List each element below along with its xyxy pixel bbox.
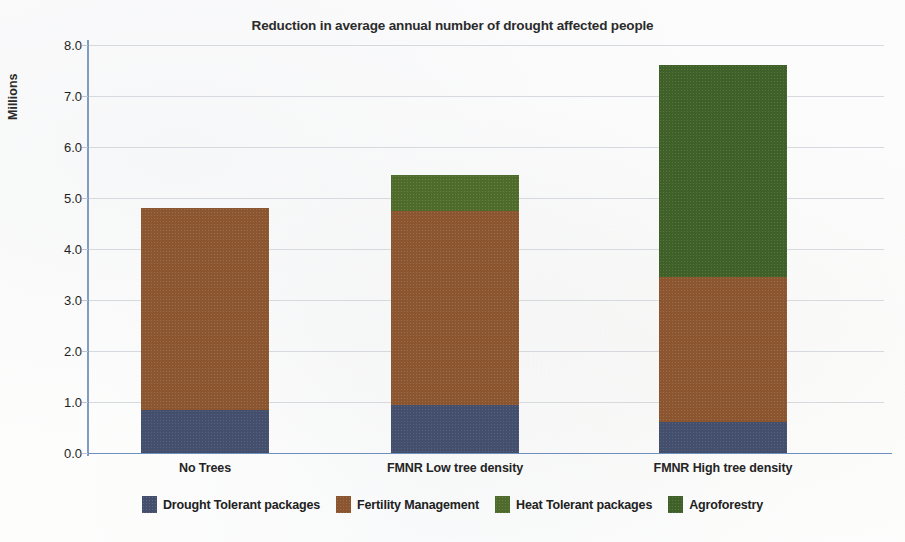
bar-segment-heat-tolerant[interactable]: [391, 175, 519, 211]
bar-group[interactable]: [659, 45, 787, 453]
y-axis-tick-mark: [82, 198, 88, 199]
legend-item[interactable]: Fertility Management: [336, 496, 479, 513]
bar-segment-drought-tolerant[interactable]: [141, 410, 269, 453]
y-axis-tick-label: 5.0: [38, 191, 82, 206]
legend-item[interactable]: Agroforestry: [668, 496, 763, 513]
bar-group[interactable]: [391, 45, 519, 453]
y-axis-tick-label: 1.0: [38, 395, 82, 410]
chart-title: Reduction in average annual number of dr…: [0, 18, 905, 33]
bar-group[interactable]: [141, 45, 269, 453]
legend-label: Agroforestry: [689, 498, 763, 512]
y-axis-tick-mark: [82, 249, 88, 250]
y-axis-tick-label: 3.0: [38, 293, 82, 308]
legend-label: Fertility Management: [357, 498, 479, 512]
y-axis-line: [87, 40, 89, 456]
y-axis-tick-mark: [82, 147, 88, 148]
x-axis-category-label: FMNR High tree density: [593, 461, 853, 475]
legend-item[interactable]: Drought Tolerant packages: [142, 496, 320, 513]
bar-segment-fertility-management[interactable]: [141, 208, 269, 409]
y-axis-tick-mark: [82, 402, 88, 403]
legend-label: Heat Tolerant packages: [516, 498, 652, 512]
y-axis-tick-label: 8.0: [38, 38, 82, 53]
bar-segment-drought-tolerant[interactable]: [391, 405, 519, 453]
x-axis-category-label: FMNR Low tree density: [325, 461, 585, 475]
legend-item[interactable]: Heat Tolerant packages: [495, 496, 652, 513]
bar-segment-drought-tolerant[interactable]: [659, 422, 787, 453]
y-axis-tick-label: 6.0: [38, 140, 82, 155]
y-axis-title: Millions: [6, 52, 24, 142]
y-axis-tick-label: 2.0: [38, 344, 82, 359]
y-axis-tick-label: 7.0: [38, 89, 82, 104]
y-axis-tick-mark: [82, 453, 88, 454]
plot-area: [88, 45, 884, 453]
legend-label: Drought Tolerant packages: [163, 498, 320, 512]
bar-segment-fertility-management[interactable]: [659, 277, 787, 422]
stacked-bar-chart: Reduction in average annual number of dr…: [0, 0, 905, 542]
bar-segment-fertility-management[interactable]: [391, 211, 519, 405]
bar-segment-agroforestry[interactable]: [659, 65, 787, 277]
x-axis-category-label: No Trees: [75, 461, 335, 475]
legend-swatch-fertility-management: [336, 496, 351, 513]
y-axis-tick-label: 4.0: [38, 242, 82, 257]
legend-swatch-drought-tolerant: [142, 496, 157, 513]
chart-legend: Drought Tolerant packagesFertility Manag…: [0, 496, 905, 513]
x-axis-line: [80, 453, 892, 455]
y-axis-tick-mark: [82, 96, 88, 97]
y-axis-tick-mark: [82, 300, 88, 301]
y-axis-tick-label: 0.0: [38, 446, 82, 461]
y-axis-tick-mark: [82, 45, 88, 46]
legend-swatch-heat-tolerant: [495, 496, 510, 513]
y-axis-tick-mark: [82, 351, 88, 352]
legend-swatch-agroforestry: [668, 496, 683, 513]
